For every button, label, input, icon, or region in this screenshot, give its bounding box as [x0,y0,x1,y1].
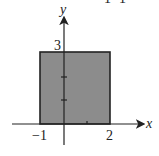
x-axis-label: x [145,116,153,131]
top-cropped-text: 1−1 [104,0,126,6]
y-axis-label: y [58,2,67,17]
y-tick-label-3: 3 [54,38,61,53]
x-tick-label-2: 2 [106,128,113,143]
x-tick-label-minus1: −1 [32,128,47,143]
shaded-region [40,52,110,124]
region-diagram: 1−1 3 −1 2 x y [0,0,159,156]
